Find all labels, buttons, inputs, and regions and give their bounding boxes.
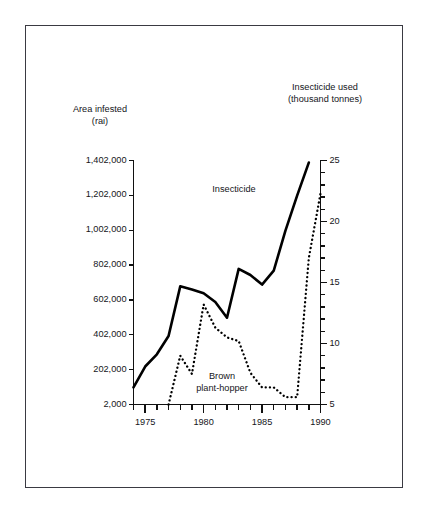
figure-container: Area infested (rai) Insecticide used (th… [0,0,429,525]
data-series [134,163,321,405]
series-path-brown-plant-hopper [169,193,321,404]
plot-canvas [0,0,429,525]
series-path-insecticide [134,163,309,388]
axis-lines [134,160,321,405]
